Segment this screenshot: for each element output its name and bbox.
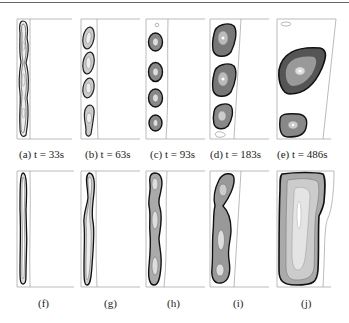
contour-plot-i [209, 170, 271, 290]
caption-e: (e) t = 486s [277, 148, 328, 160]
contour-plot-b [80, 18, 142, 140]
panel-f [16, 170, 78, 290]
caption-g: (g) [104, 297, 117, 309]
caption-i: (i) [233, 297, 243, 309]
caption-h: (h) [167, 297, 180, 309]
contour-plot-a [14, 18, 76, 140]
contour-plot-f [16, 170, 78, 290]
caption-d: (d) t = 183s [210, 148, 261, 160]
contour-plot-e [276, 18, 346, 140]
panel-e [276, 18, 346, 140]
panel-b [80, 18, 142, 140]
contour-plot-h [145, 170, 207, 290]
panel-h [145, 170, 207, 290]
top-rule [0, 2, 349, 3]
panel-c [145, 18, 207, 140]
caption-c: (c) t = 93s [150, 148, 195, 160]
contour-plot-g [80, 170, 142, 290]
panel-j [276, 170, 346, 290]
panel-g [80, 170, 142, 290]
caption-j: (j) [301, 297, 311, 309]
contour-plot-j [276, 170, 346, 290]
contour-plot-d [209, 18, 271, 140]
panel-a [14, 18, 76, 140]
caption-f: (f) [38, 297, 49, 309]
panel-d [209, 18, 271, 140]
panel-i [209, 170, 271, 290]
caption-b: (b) t = 63s [85, 148, 131, 160]
contour-plot-c [145, 18, 207, 140]
caption-a: (a) t = 33s [19, 148, 64, 160]
